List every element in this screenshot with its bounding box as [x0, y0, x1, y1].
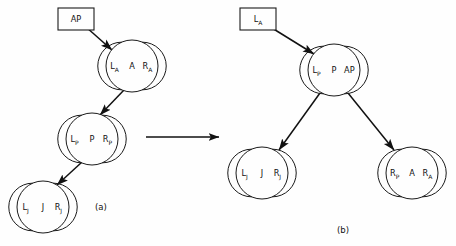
box-label: AP — [71, 14, 82, 24]
edge-root-to-p — [100, 90, 124, 115]
a-node-key-field: J — [41, 202, 44, 212]
caption-a: (a) — [95, 202, 107, 212]
tree-node[interactable]: RPARA — [378, 147, 446, 199]
panel-b: LALPPAPLJJRJRPARA — [228, 8, 446, 199]
tree-node[interactable]: LAARA — [98, 40, 166, 92]
captions-group: (a)(b) — [95, 202, 349, 235]
edge-root-to-right — [348, 93, 394, 150]
caption-b: (b) — [337, 225, 349, 235]
b-source-box[interactable]: LA — [240, 8, 276, 30]
b-node-key-field: J — [260, 168, 263, 178]
tree-node[interactable]: LPPRP — [58, 113, 126, 165]
edge-la-box-to-root — [272, 28, 314, 54]
panel-a: APLAARALPPRPLJJRJ — [9, 8, 166, 233]
b-node-key-field: P — [332, 65, 337, 75]
a-source-box[interactable]: AP — [58, 8, 94, 30]
edge-p-to-j — [57, 162, 82, 185]
b-node-right-field: AP — [344, 65, 355, 75]
a-node-key-field: A — [129, 61, 135, 71]
edge-root-to-left — [279, 93, 320, 150]
b-node-key-field: A — [409, 168, 415, 178]
tree-node[interactable]: LJJRJ — [9, 181, 77, 233]
tree-rotation-figure: APLAARALPPRPLJJRJ LALPPAPLJJRJRPARA (a)(… — [0, 0, 456, 246]
diagram-canvas: APLAARALPPRPLJJRJ LALPPAPLJJRJRPARA (a)(… — [0, 0, 456, 246]
tree-node[interactable]: LJJRJ — [228, 147, 296, 199]
a-node-key-field: P — [90, 134, 95, 144]
